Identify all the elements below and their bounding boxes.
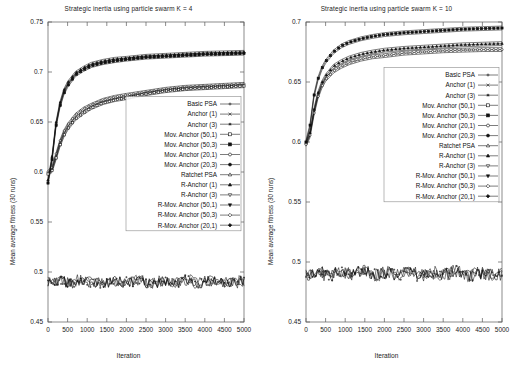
svg-text:0.7: 0.7 xyxy=(292,18,301,25)
svg-text:Mov. Anchor (50,3): Mov. Anchor (50,3) xyxy=(164,141,217,149)
svg-text:Anchor (1): Anchor (1) xyxy=(188,110,217,118)
svg-text:0.5: 0.5 xyxy=(34,268,43,275)
svg-text:500: 500 xyxy=(62,326,73,333)
svg-text:3000: 3000 xyxy=(416,326,431,333)
svg-text:Ratchet PSA: Ratchet PSA xyxy=(439,142,476,149)
svg-text:Mov. Anchor (20,3): Mov. Anchor (20,3) xyxy=(164,161,217,169)
svg-text:500: 500 xyxy=(320,326,331,333)
svg-text:Mov. Anchor (20,1): Mov. Anchor (20,1) xyxy=(164,151,217,159)
svg-text:0: 0 xyxy=(46,326,50,333)
svg-text:Mov. Anchor (20,3): Mov. Anchor (20,3) xyxy=(422,132,475,140)
plot-area-k10: 0.450.50.550.60.650.70500100015002000250… xyxy=(258,0,515,379)
svg-text:R-Mov. Anchor (50,1): R-Mov. Anchor (50,1) xyxy=(416,172,475,180)
svg-text:0.55: 0.55 xyxy=(288,198,301,205)
svg-text:0.6: 0.6 xyxy=(292,138,301,145)
svg-text:R-Anchor (1): R-Anchor (1) xyxy=(439,152,475,160)
chart-panel-k10: Strategic inertia using particle swarm K… xyxy=(258,0,515,379)
svg-text:Anchor (3): Anchor (3) xyxy=(188,121,217,129)
svg-text:R-Mov. Anchor (50,1): R-Mov. Anchor (50,1) xyxy=(158,201,217,209)
svg-text:2500: 2500 xyxy=(139,326,154,333)
svg-text:Mov. Anchor (50,3): Mov. Anchor (50,3) xyxy=(422,112,475,120)
svg-text:R-Anchor (1): R-Anchor (1) xyxy=(181,181,217,189)
svg-text:R-Anchor (3): R-Anchor (3) xyxy=(181,191,217,199)
svg-text:R-Mov. Anchor (20,1): R-Mov. Anchor (20,1) xyxy=(158,222,217,230)
svg-text:5000: 5000 xyxy=(495,326,510,333)
chart-panel-k4: Strategic inertia using particle swarm K… xyxy=(0,0,257,379)
svg-text:4000: 4000 xyxy=(456,326,471,333)
svg-text:Anchor (1): Anchor (1) xyxy=(446,81,475,89)
svg-text:R-Mov. Anchor (50,3): R-Mov. Anchor (50,3) xyxy=(416,182,475,190)
svg-text:0.6: 0.6 xyxy=(34,168,43,175)
svg-text:Ratchet PSA: Ratchet PSA xyxy=(181,171,218,178)
svg-text:Mov. Anchor (20,1): Mov. Anchor (20,1) xyxy=(422,122,475,130)
two-panel-line-chart-figure: Strategic inertia using particle swarm K… xyxy=(0,0,515,379)
svg-text:Basic PSA: Basic PSA xyxy=(187,100,218,107)
svg-text:0: 0 xyxy=(304,326,308,333)
svg-text:Basic PSA: Basic PSA xyxy=(445,71,476,78)
svg-text:2500: 2500 xyxy=(397,326,412,333)
svg-text:R-Mov. Anchor (20,1): R-Mov. Anchor (20,1) xyxy=(416,193,475,201)
svg-text:0.65: 0.65 xyxy=(288,78,301,85)
svg-text:4500: 4500 xyxy=(217,326,232,333)
svg-text:1000: 1000 xyxy=(80,326,95,333)
svg-text:3500: 3500 xyxy=(436,326,451,333)
svg-text:Mov. Anchor (50,1): Mov. Anchor (50,1) xyxy=(164,131,217,139)
svg-text:R-Mov. Anchor (50,3): R-Mov. Anchor (50,3) xyxy=(158,211,217,219)
x-axis-label-k10: Iteration xyxy=(258,352,515,359)
svg-text:2000: 2000 xyxy=(119,326,134,333)
svg-text:1500: 1500 xyxy=(358,326,373,333)
svg-text:R-Anchor (3): R-Anchor (3) xyxy=(439,162,475,170)
svg-text:0.65: 0.65 xyxy=(30,118,43,125)
svg-text:0.75: 0.75 xyxy=(30,18,43,25)
svg-text:3500: 3500 xyxy=(178,326,193,333)
svg-text:2000: 2000 xyxy=(377,326,392,333)
svg-text:0.5: 0.5 xyxy=(292,258,301,265)
svg-text:0.7: 0.7 xyxy=(34,68,43,75)
plot-area-k4: 0.450.50.550.60.650.70.75050010001500200… xyxy=(0,0,257,379)
svg-text:5000: 5000 xyxy=(237,326,252,333)
svg-text:0.45: 0.45 xyxy=(30,318,43,325)
svg-text:3000: 3000 xyxy=(158,326,173,333)
svg-text:0.55: 0.55 xyxy=(30,218,43,225)
svg-text:4000: 4000 xyxy=(198,326,213,333)
svg-text:1500: 1500 xyxy=(100,326,115,333)
svg-text:4500: 4500 xyxy=(475,326,490,333)
svg-text:Anchor (3): Anchor (3) xyxy=(446,92,475,100)
x-axis-label-k4: Iteration xyxy=(0,352,257,359)
svg-text:1000: 1000 xyxy=(338,326,353,333)
svg-text:Mov. Anchor (50,1): Mov. Anchor (50,1) xyxy=(422,102,475,110)
svg-text:0.45: 0.45 xyxy=(288,318,301,325)
